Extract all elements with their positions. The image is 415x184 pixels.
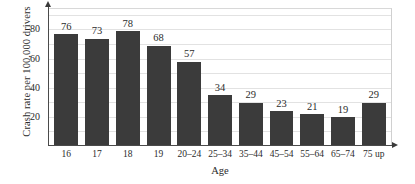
bar-slot[interactable]: 57: [174, 8, 205, 145]
bar-value-label: 76: [51, 22, 82, 33]
bar-value-label: 68: [143, 33, 174, 44]
bar-slot[interactable]: 19: [328, 8, 359, 145]
bar-value-label: 29: [235, 90, 266, 101]
bar-slot[interactable]: 34: [205, 8, 236, 145]
y-axis-arrow-icon: [45, 1, 51, 7]
x-axis-arrow-icon: [392, 142, 398, 148]
bar-slot[interactable]: 29: [235, 8, 266, 145]
x-axis-tick-group: 1617181920–2425–3435–4445–5455–6465–7475…: [48, 149, 392, 159]
bar-value-label: 21: [297, 102, 328, 113]
y-axis-tick-group: 20406080: [0, 0, 48, 184]
bar[interactable]: [85, 39, 109, 145]
x-axis-line: [48, 145, 394, 146]
x-axis-tick-label: 25–34: [205, 149, 236, 159]
bar-slot[interactable]: 29: [358, 8, 389, 145]
x-axis-tick-label: 20–24: [174, 149, 205, 159]
bar-value-label: 19: [328, 105, 359, 116]
bar-value-label: 34: [205, 83, 236, 94]
bar[interactable]: [147, 46, 171, 145]
bar-value-label: 78: [112, 19, 143, 30]
bar[interactable]: [331, 117, 355, 145]
bar-series: 7673786857342923211929: [48, 8, 392, 145]
bar-slot[interactable]: 23: [266, 8, 297, 145]
bar[interactable]: [177, 62, 201, 145]
y-axis-tick-label: 80: [30, 23, 40, 34]
x-axis-tick-label: 19: [143, 149, 174, 159]
bar[interactable]: [239, 103, 263, 145]
bar-slot[interactable]: 21: [297, 8, 328, 145]
bar[interactable]: [362, 103, 386, 145]
bar-value-label: 29: [358, 90, 389, 101]
bar[interactable]: [300, 114, 324, 145]
y-axis-tick-label: 40: [30, 81, 40, 92]
bar[interactable]: [116, 31, 140, 145]
x-axis-title: Age: [48, 165, 392, 176]
x-axis-tick-label: 16: [51, 149, 82, 159]
y-axis-tick-label: 60: [30, 52, 40, 63]
bar-value-label: 73: [82, 26, 113, 37]
x-axis-tick-label: 18: [112, 149, 143, 159]
bar-chart-figure: Crash rate per 100,000 drivers 20406080 …: [0, 0, 415, 184]
bar[interactable]: [54, 34, 78, 145]
bar[interactable]: [208, 95, 232, 145]
x-axis-tick-label: 17: [82, 149, 113, 159]
bar-value-label: 23: [266, 99, 297, 110]
x-axis-tick-label: 35–44: [235, 149, 266, 159]
bar-value-label: 57: [174, 49, 205, 60]
bar-slot[interactable]: 76: [51, 8, 82, 145]
bar-slot[interactable]: 78: [112, 8, 143, 145]
y-axis-tick-label: 20: [30, 110, 40, 121]
x-axis-tick-label: 75 up: [358, 149, 389, 159]
bar[interactable]: [270, 111, 294, 145]
bar-slot[interactable]: 73: [82, 8, 113, 145]
x-axis-tick-label: 55–64: [297, 149, 328, 159]
bar-slot[interactable]: 68: [143, 8, 174, 145]
x-axis-tick-label: 45–54: [266, 149, 297, 159]
x-axis-tick-label: 65–74: [328, 149, 359, 159]
